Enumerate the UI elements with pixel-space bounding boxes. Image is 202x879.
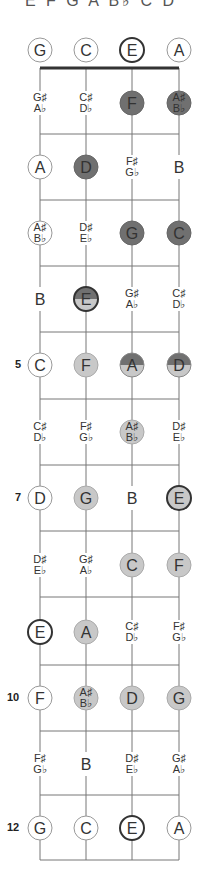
note-label: E xyxy=(127,820,138,837)
note-label: E xyxy=(127,42,138,59)
note-label-flat: B♭ xyxy=(80,697,92,709)
note-label: B xyxy=(174,159,185,176)
note-label: B xyxy=(81,756,92,773)
note-label: F xyxy=(127,95,137,112)
note-label: A xyxy=(127,357,138,374)
note-label-flat: D♭ xyxy=(80,102,93,114)
note-label: D xyxy=(173,357,185,374)
note-label-flat: E♭ xyxy=(126,763,138,775)
note-label-flat: G♭ xyxy=(172,631,186,643)
note-label: A xyxy=(35,159,46,176)
note-label: B xyxy=(127,490,138,507)
ukulele-fretboard: GCEAG♯A♭C♯D♭FA♯B♭ADF♯G♭BA♯B♭D♯E♭GCBEG♯A♭… xyxy=(0,0,202,879)
fret-number-10: 10 xyxy=(7,691,19,703)
note-label-flat: A♭ xyxy=(34,102,46,114)
note-label-flat: A♭ xyxy=(126,298,138,310)
fret-number-5: 5 xyxy=(15,358,21,370)
fret-number-7: 7 xyxy=(15,491,21,503)
note-label: E xyxy=(81,291,92,308)
note-label-flat: D♭ xyxy=(173,298,186,310)
note-label: C xyxy=(126,557,138,574)
note-label: F xyxy=(35,690,45,707)
note-label: E xyxy=(174,490,185,507)
note-label: G xyxy=(126,225,138,242)
note-label: A xyxy=(174,42,185,59)
note-label: D xyxy=(80,159,92,176)
fret-number-12: 12 xyxy=(7,821,19,833)
note-label: G xyxy=(80,490,92,507)
note-label-flat: B♭ xyxy=(173,102,185,114)
note-label-flat: D♭ xyxy=(34,431,47,443)
note-label: C xyxy=(34,357,46,374)
note-label: C xyxy=(80,42,92,59)
note-label: E xyxy=(35,624,46,641)
note-label-flat: A♭ xyxy=(173,763,185,775)
note-label-flat: A♭ xyxy=(80,564,92,576)
note-label: C xyxy=(173,225,185,242)
note-label: D xyxy=(34,490,46,507)
note-label: F xyxy=(174,557,184,574)
note-label: A xyxy=(81,624,92,641)
note-label: G xyxy=(34,42,46,59)
note-label: A xyxy=(174,820,185,837)
note-label-flat: G♭ xyxy=(79,431,93,443)
note-label: G xyxy=(34,820,46,837)
note-label: D xyxy=(126,690,138,707)
note-label: C xyxy=(80,820,92,837)
note-label-flat: B♭ xyxy=(126,431,138,443)
note-label: B xyxy=(35,291,46,308)
note-label-flat: E♭ xyxy=(34,564,46,576)
note-label-flat: G♭ xyxy=(33,763,47,775)
note-label: F xyxy=(81,357,91,374)
note-label-flat: G♭ xyxy=(125,166,139,178)
note-label-flat: B♭ xyxy=(34,232,46,244)
note-label-flat: E♭ xyxy=(173,431,185,443)
note-label-flat: D♭ xyxy=(126,631,139,643)
note-label-flat: E♭ xyxy=(80,232,92,244)
note-label: G xyxy=(173,690,185,707)
